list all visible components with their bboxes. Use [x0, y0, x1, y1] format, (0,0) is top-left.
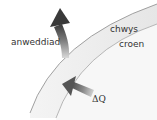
sweat-label: chwys: [110, 25, 138, 34]
evaporation-label: anweddiad: [11, 38, 60, 47]
skin-label: croen: [119, 40, 144, 49]
evaporation-arrow: [50, 8, 70, 58]
diagram-canvas: [0, 0, 157, 120]
sweat-evaporation-diagram: anweddiad chwys croen ΔQ: [0, 0, 157, 120]
heat-flow-label: ΔQ: [92, 95, 106, 104]
